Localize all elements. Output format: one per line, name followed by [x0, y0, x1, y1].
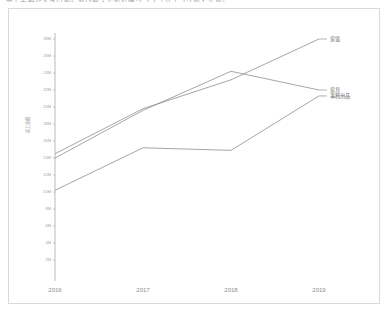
y-axis-tick-label: 18M	[29, 122, 51, 126]
y-axis-tick-label: 28M	[29, 37, 51, 41]
y-axis-tick-label: 22M	[29, 88, 51, 92]
y-axis-tick-label: 14M	[29, 156, 51, 160]
series-label: 事務用品	[330, 93, 350, 99]
chart-page: 売上金額が大きい順に並び替えた折れ線グラフ（カテゴリ別・年別） 売上金額 28M…	[0, 0, 389, 313]
y-axis-tick-label: 2M	[29, 258, 51, 262]
x-axis-tick-label: 2016	[35, 287, 75, 294]
series-line	[55, 71, 319, 158]
y-axis-tick-label: 12M	[29, 173, 51, 177]
y-axis-tick-label: 4M	[29, 241, 51, 245]
y-axis-tick-label: 26M	[29, 54, 51, 58]
y-axis-tick-label: 24M	[29, 71, 51, 75]
y-axis-tick-label: 8M	[29, 207, 51, 211]
y-axis-tick-label: 16M	[29, 139, 51, 143]
page-title: 売上金額が大きい順に並び替えた折れ線グラフ（カテゴリ別・年別）	[6, 0, 229, 2]
y-axis-tick-label: 6M	[29, 224, 51, 228]
line-chart-svg	[9, 9, 381, 303]
y-axis-title: 売上金額	[25, 93, 30, 133]
plot-area	[9, 9, 381, 303]
chart-card: 売上金額 28M26M24M22M20M18M16M14M12M10M8M6M4…	[8, 8, 380, 304]
x-axis-tick-label: 2017	[123, 287, 163, 294]
series-line	[55, 96, 319, 190]
y-axis-tick-label: 10M	[29, 190, 51, 194]
x-axis-tick-label: 2018	[211, 287, 251, 294]
y-axis-tick-label: 20M	[29, 105, 51, 109]
x-axis-tick-label: 2019	[299, 287, 339, 294]
series-label: 家電	[330, 36, 340, 42]
